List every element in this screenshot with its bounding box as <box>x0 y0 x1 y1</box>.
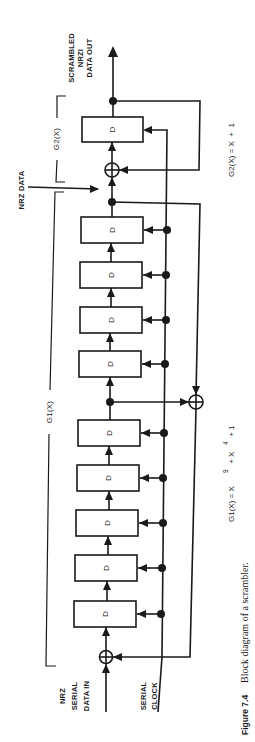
svg-text:D: D <box>104 475 113 481</box>
scrambler-diagram: D D D D D D D <box>0 0 255 742</box>
g2-bracket: G2(X) <box>52 96 66 182</box>
arrow-icon <box>102 664 110 673</box>
svg-text:D: D <box>108 126 117 132</box>
svg-text:SERIAL: SERIAL <box>70 681 79 710</box>
output-arrow-icon <box>108 46 118 57</box>
input-xor-icon <box>100 651 113 664</box>
svg-text:NRZ: NRZ <box>58 688 67 704</box>
serial-clock-label: SERIAL CLOCK <box>139 681 159 710</box>
g1-feedback-xor-icon <box>189 395 203 409</box>
svg-text:4: 4 <box>222 441 229 445</box>
input-data-label: NRZ SERIAL DATA IN <box>58 681 91 711</box>
svg-text:D: D <box>105 430 114 436</box>
svg-text:G1(X) = X: G1(X) = X <box>227 486 236 522</box>
nrz-data-line <box>28 187 98 189</box>
svg-text:G2(X): G2(X) <box>52 128 61 150</box>
d-label: D <box>101 611 110 617</box>
svg-text:Block diagram of a scrambler.: Block diagram of a scrambler. <box>239 562 250 683</box>
svg-text:DATA IN: DATA IN <box>82 681 91 711</box>
g1-equation: G1(X) = X 9 + X 4 + 1 <box>222 425 236 522</box>
svg-text:CLOCK: CLOCK <box>150 682 159 710</box>
svg-text:G1(X): G1(X) <box>45 401 54 423</box>
svg-text:Figure 7.4: Figure 7.4 <box>240 695 250 735</box>
figure-caption: Figure 7.4 Block diagram of a scrambler. <box>239 562 250 735</box>
svg-text:D: D <box>102 565 111 571</box>
g1-shift-register: D D D D D D D <box>74 217 189 627</box>
svg-text:D: D <box>103 520 112 526</box>
arrow-icon <box>102 627 110 636</box>
svg-text:D: D <box>108 227 117 233</box>
serial-clock-bus <box>137 126 171 712</box>
svg-text:+ X: + X <box>227 451 236 466</box>
svg-text:SERIAL: SERIAL <box>139 681 148 710</box>
svg-text:D: D <box>106 361 115 367</box>
svg-text:9: 9 <box>222 469 229 473</box>
g2-xor-icon <box>105 163 119 177</box>
svg-text:NRZI: NRZI <box>76 49 85 67</box>
svg-text:D: D <box>107 317 116 323</box>
svg-text:+ 1: + 1 <box>227 425 236 439</box>
svg-text:SCRAMBLED: SCRAMBLED <box>67 33 76 83</box>
g1-bracket: G1(X) <box>45 192 64 666</box>
g2-equation: G2(X) = X + 1 <box>227 123 236 177</box>
svg-text:D: D <box>107 272 116 278</box>
svg-text:DATA OUT: DATA OUT <box>85 38 94 77</box>
nrz-data-label: NRZ DATA <box>17 170 26 209</box>
output-label: SCRAMBLED NRZI DATA OUT <box>67 33 94 83</box>
